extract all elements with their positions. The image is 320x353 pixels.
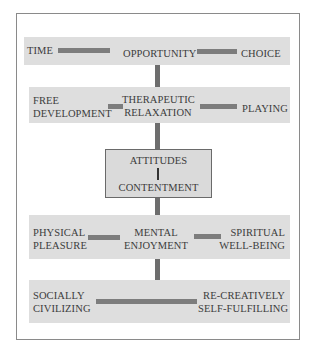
connector-box-row3 [155, 198, 160, 216]
label-line: RE-CREATIVELY [198, 290, 285, 303]
label-playing: PLAYING [242, 103, 288, 116]
label-opportunity: OPPORTUNITY [123, 48, 196, 61]
connector-physical-mental [88, 235, 120, 240]
label-spiritual-well-being: SPIRITUAL WELL-BEING [214, 227, 285, 252]
label-free-development: FREE DEVELOPMENT [33, 95, 112, 120]
label-line: RELAXATION [122, 107, 194, 120]
attitudes-contentment-box: ATTITUDES CONTENTMENT [105, 149, 212, 198]
label-line: PLEASURE [33, 240, 87, 253]
label-line: ENJOYMENT [124, 240, 188, 253]
label-line: FREE [33, 95, 112, 108]
connector-time-opportunity [58, 48, 110, 53]
label-recreatively-self-fulfilling: RE-CREATIVELY SELF-FULFILLING [198, 290, 285, 315]
connector-therapeutic-playing [200, 104, 237, 109]
connector-socially-recreatively [96, 299, 197, 304]
connector-row1-row2 [155, 65, 160, 87]
connector-row3-row4 [155, 259, 160, 280]
label-socially-civilizing: SOCIALLY CIVILIZING [33, 290, 91, 315]
connector-opportunity-choice [197, 49, 237, 54]
label-line: MENTAL [124, 227, 188, 240]
label-line: THERAPEUTIC [122, 94, 194, 107]
label-line: SOCIALLY [33, 290, 91, 303]
label-line: WELL-BEING [214, 240, 285, 253]
label-time: TIME [27, 45, 53, 58]
label-line: CIVILIZING [33, 303, 91, 316]
connector-row2-box [155, 123, 160, 150]
label-mental-enjoyment: MENTAL ENJOYMENT [124, 227, 188, 252]
label-physical-pleasure: PHYSICAL PLEASURE [33, 227, 87, 252]
label-line: SPIRITUAL [214, 227, 285, 240]
label-attitudes: ATTITUDES [106, 155, 211, 168]
label-choice: CHOICE [241, 48, 281, 61]
label-contentment: CONTENTMENT [106, 182, 211, 195]
connector-free-therapeutic [108, 104, 123, 109]
label-line: DEVELOPMENT [33, 108, 112, 121]
label-therapeutic-relaxation: THERAPEUTIC RELAXATION [122, 94, 194, 119]
box-divider-line [157, 168, 159, 180]
label-line: PHYSICAL [33, 227, 87, 240]
label-line: SELF-FULFILLING [198, 303, 285, 316]
